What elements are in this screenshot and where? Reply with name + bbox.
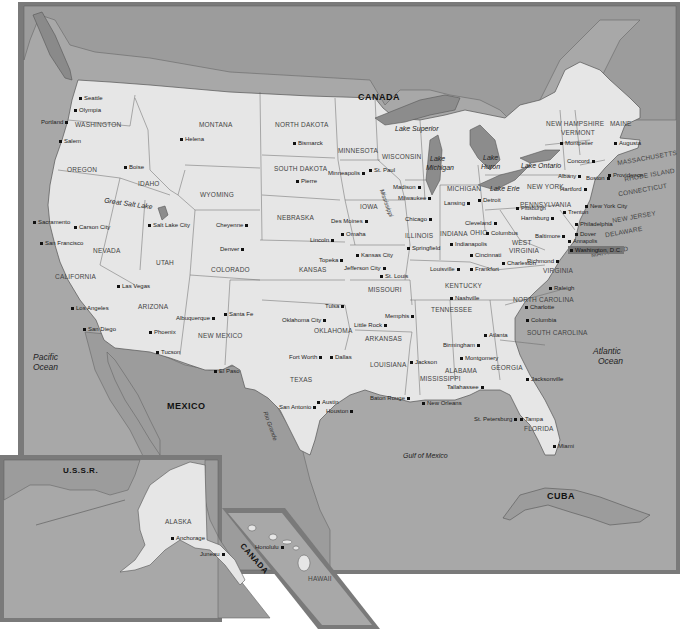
city-lincoln: Lincoln xyxy=(310,237,334,243)
city-concord: Concord xyxy=(567,158,595,164)
city-augusta: Augusta xyxy=(614,140,641,146)
city-san-francisco: San Francisco xyxy=(40,240,83,246)
label-lake-michigan-2: Michigan xyxy=(426,164,454,171)
label-oregon: OREGON xyxy=(67,167,97,174)
label-iowa: IOWA xyxy=(360,204,378,211)
label-washington: WASHINGTON xyxy=(75,122,121,129)
city-portland: Portland xyxy=(41,119,68,125)
city-detroit: Detroit xyxy=(478,197,501,203)
city-bismarck: Bismarck xyxy=(293,140,323,146)
city-austin: Austin xyxy=(317,399,339,405)
label-wyoming: WYOMING xyxy=(200,192,234,199)
city-salt-lake-city: Salt Lake City xyxy=(148,222,190,228)
city-st-petersburg: St. Petersburg xyxy=(474,416,517,422)
label-california: CALIFORNIA xyxy=(55,274,96,281)
city-san-diego: San Diego xyxy=(83,326,116,332)
city-st-paul: St. Paul xyxy=(369,167,395,173)
city-madison: Madison xyxy=(393,184,421,190)
city-phoenix: Phoenix xyxy=(149,329,176,335)
label-ohio: OHIO xyxy=(470,230,487,237)
city-pittsburgh: Pittsburgh xyxy=(516,206,546,212)
label-lake-superior: Lake Superior xyxy=(395,125,439,132)
label-alabama: ALABAMA xyxy=(445,368,477,375)
label-texas: TEXAS xyxy=(290,377,312,384)
label-minnesota: MINNESOTA xyxy=(338,148,378,155)
city-topeka: Topeka xyxy=(319,257,343,263)
label-atlantic-1: Atlantic xyxy=(593,347,621,356)
label-lake-michigan-1: Lake xyxy=(430,155,445,162)
label-south-dakota: SOUTH DAKOTA xyxy=(274,166,327,173)
label-pacific-2: Ocean xyxy=(33,363,58,372)
city-louisville: Louisville xyxy=(430,266,460,272)
label-louisiana: LOUISIANA xyxy=(370,362,406,369)
city-charlotte: Charlotte xyxy=(525,304,554,310)
city-denver: Denver xyxy=(220,246,244,252)
city-milwaukee: Milwaukee xyxy=(398,195,431,201)
label-vermont: VERMONT xyxy=(561,130,595,137)
city-tallahassee: Tallahassee xyxy=(447,384,484,390)
city-new-york-city: New York City xyxy=(585,203,627,209)
city-philadelphia: Philadelphia xyxy=(575,221,613,227)
city-memphis: Memphis xyxy=(385,313,414,319)
city-el-paso: El Paso xyxy=(214,368,240,374)
label-arkansas: ARKANSAS xyxy=(365,336,402,343)
city-hartford: Hartford xyxy=(560,186,587,192)
label-missouri: MISSOURI xyxy=(368,287,402,294)
city-baton-rouge: Baton Rouge xyxy=(370,395,410,401)
city-tampa: Tampa xyxy=(520,416,543,422)
label-lake-erie: Lake Erie xyxy=(490,185,520,192)
label-montana: MONTANA xyxy=(199,122,232,129)
label-new-york: NEW YORK xyxy=(527,184,564,191)
city-jackson: Jackson xyxy=(410,359,437,365)
city-columbia: Columbia xyxy=(526,317,556,323)
label-mississippi: MISSISSIPPI xyxy=(420,376,461,383)
label-illinois: ILLINOIS xyxy=(405,233,433,240)
city-cleveland: Cleveland xyxy=(465,220,497,226)
city-des-moines: Des Moines xyxy=(331,218,368,224)
city-houston: Houston xyxy=(326,408,353,414)
city-boston: Boston xyxy=(586,175,610,181)
label-north-dakota: NORTH DAKOTA xyxy=(275,122,328,129)
label-arizona: ARIZONA xyxy=(138,304,168,311)
city-annapolis: Annapolis xyxy=(568,239,597,245)
label-kentucky: KENTUCKY xyxy=(445,283,482,290)
label-maine: MAINE xyxy=(610,121,632,128)
city-san-antonio: San Antonio xyxy=(279,404,316,410)
city-birmingham: Birmingham xyxy=(443,342,480,348)
city-chicago: Chicago xyxy=(405,216,432,222)
label-colorado: COLORADO xyxy=(211,267,250,274)
city-lansing: Lansing xyxy=(444,200,470,206)
city-st-louis: St. Louis xyxy=(380,273,408,279)
city-fort-worth: Fort Worth xyxy=(289,354,322,360)
label-wisconsin: WISCONSIN xyxy=(382,154,421,161)
label-mexico: MEXICO xyxy=(167,402,206,411)
city-las-vegas: Las Vegas xyxy=(117,283,150,289)
label-tennessee: TENNESSEE xyxy=(431,307,472,314)
label-florida: FLORIDA xyxy=(524,426,554,433)
city-sacramento: Sacramento xyxy=(33,219,70,225)
city-indianapolis: Indianapolis xyxy=(450,241,487,247)
city-miami: Miami xyxy=(553,443,574,449)
city-santa-fe: Santa Fe xyxy=(224,311,253,317)
label-pacific-1: Pacific xyxy=(33,353,58,362)
label-lake-huron-2: Huron xyxy=(481,163,500,170)
city-jacksonville: Jacksonville xyxy=(526,376,563,382)
label-new-hampshire: NEW HAMPSHIRE xyxy=(546,121,604,128)
city-seattle: Seattle xyxy=(79,95,103,101)
label-kansas: KANSAS xyxy=(299,267,327,274)
city-helena: Helena xyxy=(180,136,204,142)
city-trenton: Trenton xyxy=(563,209,588,215)
label-nebraska: NEBRASKA xyxy=(277,215,314,222)
label-hawaii: HAWAII xyxy=(308,576,332,583)
label-virginia: VIRGINIA xyxy=(543,268,573,275)
city-jefferson-city: Jefferson City xyxy=(344,265,386,271)
city-albuquerque: Albuquerque xyxy=(176,315,215,321)
label-michigan: MICHIGAN xyxy=(447,186,481,193)
label-nevada: NEVADA xyxy=(93,248,120,255)
city-carson-city: Carson City xyxy=(74,224,110,230)
label-idaho: IDAHO xyxy=(138,181,160,188)
city-atlanta: Atlanta xyxy=(484,332,508,338)
label-west-virginia-1: WEST xyxy=(512,240,532,247)
city-cheyenne: Cheyenne xyxy=(216,222,248,228)
city-olympia: Olympia xyxy=(74,107,101,113)
